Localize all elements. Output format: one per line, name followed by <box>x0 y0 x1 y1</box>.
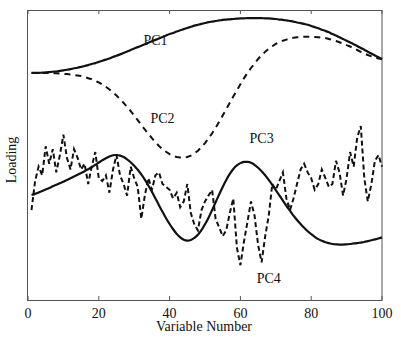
x-tick-label: 0 <box>25 306 32 321</box>
series-label-pc4: PC4 <box>257 271 281 286</box>
x-tick-label: 20 <box>92 306 106 321</box>
series-line-pc1 <box>32 18 382 73</box>
plot-frame <box>28 11 383 301</box>
y-axis-label: Loading <box>4 137 19 184</box>
x-tick-label: 80 <box>304 306 318 321</box>
x-axis-ticks <box>28 10 382 300</box>
x-tick-label: 100 <box>372 306 393 321</box>
loading-line-chart: 020406080100 PC1PC2PC3PC4 Variable Numbe… <box>0 0 401 340</box>
series-layer <box>32 18 383 265</box>
series-label-pc3: PC3 <box>250 131 274 146</box>
series-labels: PC1PC2PC3PC4 <box>143 33 280 286</box>
series-label-pc2: PC2 <box>150 111 174 126</box>
series-label-pc1: PC1 <box>143 33 167 48</box>
series-line-pc2 <box>32 37 383 158</box>
x-axis-label: Variable Number <box>156 319 252 334</box>
